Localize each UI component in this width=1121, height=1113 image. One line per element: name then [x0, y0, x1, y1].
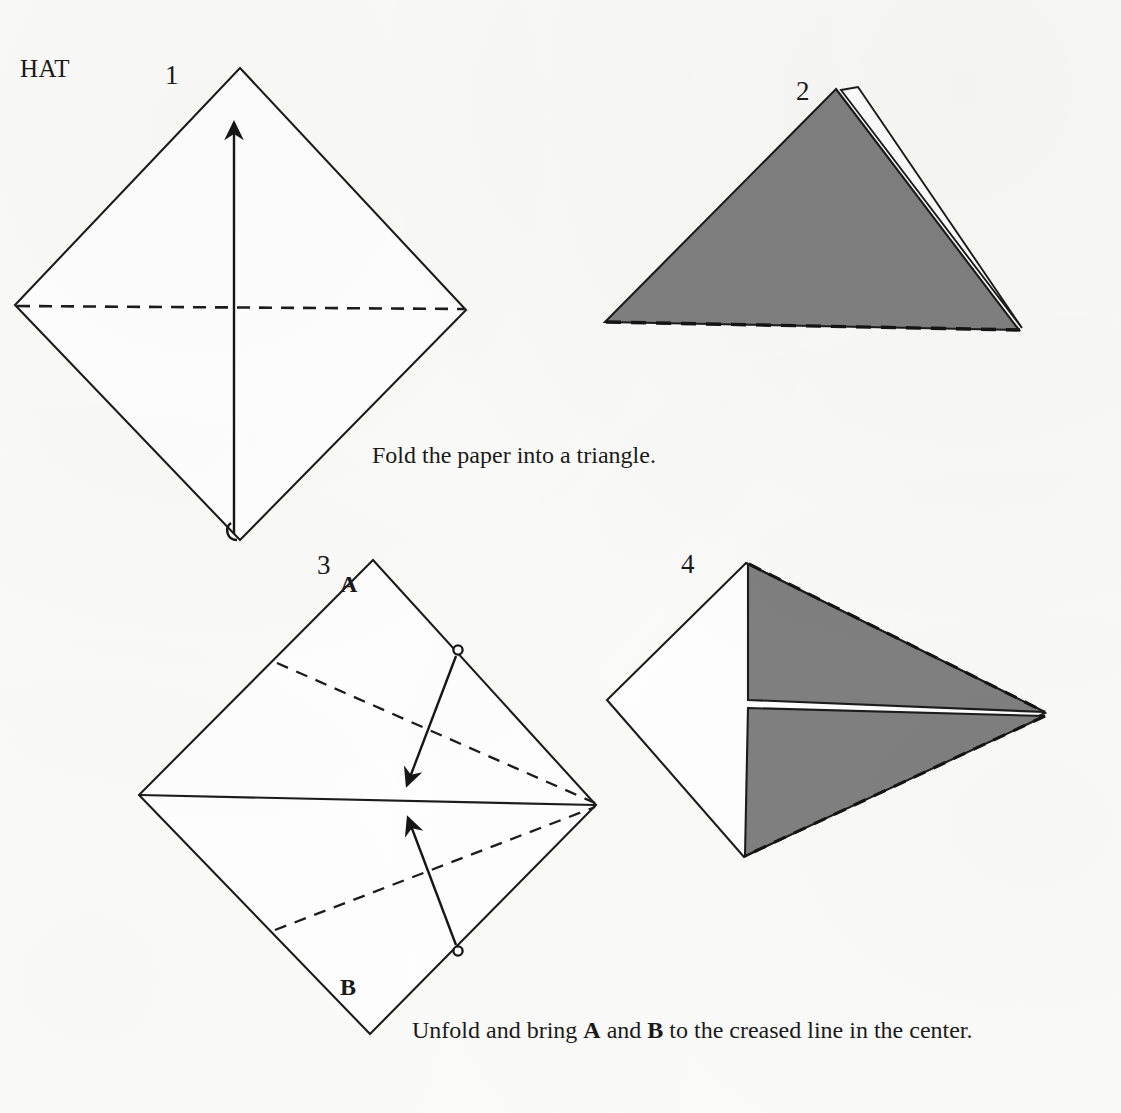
corner-label-a: A: [340, 572, 357, 596]
step3-arrow-a-pivot-circle: [453, 645, 462, 654]
step3-arrow-b-pivot-circle: [453, 946, 462, 955]
step-number-4: 4: [681, 551, 695, 578]
step-number-3: 3: [317, 552, 331, 579]
step-number-1: 1: [165, 62, 179, 89]
origami-figure-canvas: [0, 0, 1121, 1113]
step-4-diagram: [607, 563, 1045, 857]
step-2-diagram: [605, 87, 1022, 330]
step2-front-layer-shaded: [605, 89, 1019, 330]
step4-lower-shaded-flap: [745, 708, 1045, 856]
step-1-caption: Fold the paper into a triangle.: [372, 443, 656, 467]
step-3-diagram: [139, 560, 596, 1034]
corner-label-b: B: [340, 975, 356, 999]
step-3-caption-corner-a: A: [583, 1017, 600, 1043]
step-1-diagram: [15, 68, 466, 540]
page-title: HAT: [20, 56, 70, 81]
step-3-caption-corner-b: B: [647, 1017, 663, 1043]
step-number-2: 2: [796, 78, 810, 105]
step-3-caption-prefix: Unfold and bring: [412, 1017, 583, 1043]
step1-paper-diamond: [15, 68, 466, 540]
step-3-caption-mid: and: [601, 1017, 648, 1043]
step-3-caption: Unfold and bring A and B to the creased …: [412, 1018, 973, 1042]
step-3-caption-suffix: to the creased line in the center.: [663, 1017, 972, 1043]
